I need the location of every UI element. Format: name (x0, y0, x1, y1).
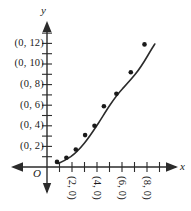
x-axis-left-arrowhead (11, 162, 23, 172)
data-point (74, 147, 79, 152)
x-tick-label-2: (2, 0) (67, 176, 78, 200)
data-point (129, 70, 134, 75)
y-axis-label: y (41, 4, 46, 16)
data-point (92, 124, 97, 129)
x-axis-right-arrowhead (166, 162, 178, 172)
graph-figure: (0, 12) (0, 10) (0, 8) (0, 6) (0, 4) (0,… (0, 0, 191, 211)
x-tick-label-8: (8, 0) (142, 176, 153, 200)
y-tick-label-8: (0, 8) (20, 78, 44, 89)
y-tick-label-12: (0, 12) (15, 37, 44, 48)
y-tick-label-2: (0, 2) (20, 140, 44, 151)
y-axis-down-arrowhead (43, 183, 51, 194)
x-axis-label: x (180, 160, 185, 172)
data-points (55, 42, 147, 164)
data-point (102, 104, 107, 109)
data-point (83, 133, 88, 138)
data-point (114, 92, 119, 97)
origin-label: O (33, 167, 41, 179)
x-tick-label-6: (6, 0) (117, 176, 128, 200)
data-point (64, 156, 69, 161)
y-tick-label-4: (0, 4) (20, 119, 44, 130)
data-point (142, 42, 147, 47)
x-tick-label-4: (4, 0) (92, 176, 103, 200)
y-tick-label-10: (0, 10) (15, 57, 44, 68)
best-fit-curve (58, 44, 155, 163)
y-tick-label-6: (0, 6) (20, 99, 44, 110)
y-axis-up-arrowhead (43, 21, 52, 32)
data-point (55, 160, 60, 165)
